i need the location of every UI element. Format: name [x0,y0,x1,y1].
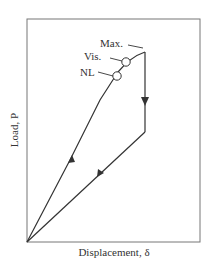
load-displacement-diagram: Max. Vis. NL Load, P Displacement, δ [0,0,212,267]
vis-label: Vis. [84,50,102,62]
nl-label: NL [80,66,95,78]
loading-curve [27,52,145,242]
loading-direction-arrow-icon [68,155,75,163]
x-axis-label: Displacement, δ [78,246,149,258]
unloading-line [27,132,145,242]
unloading-direction-arrow-icon [97,169,104,177]
max-leader-line [128,45,143,48]
drop-direction-arrow-icon [141,97,149,106]
nl-leader-line [98,72,113,76]
visible-crack-marker [122,58,130,66]
plot-frame [27,19,200,242]
max-label: Max. [100,37,123,49]
vis-leader-line [110,58,122,61]
nonlinearity-marker [113,72,121,80]
y-axis-label: Load, P [8,113,20,147]
